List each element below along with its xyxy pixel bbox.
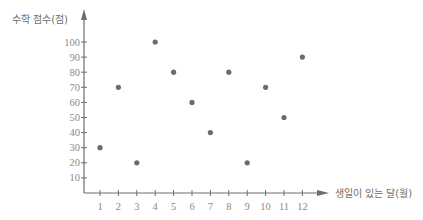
x-tick-label: 2: [116, 201, 121, 212]
x-tick-label: 5: [171, 201, 176, 212]
x-axis-title: 생일이 있는 달(월): [335, 188, 412, 199]
data-point: [153, 39, 158, 44]
data-point: [208, 130, 213, 135]
y-tick-label: 10: [70, 172, 81, 183]
data-point: [134, 160, 139, 165]
x-tick-label: 9: [245, 201, 250, 212]
x-tick-label: 3: [134, 201, 139, 212]
y-tick-label: 30: [70, 142, 81, 153]
data-point: [116, 85, 121, 90]
scatter-chart: 102030405060708090100 123456789101112 수학…: [0, 0, 423, 220]
y-tick-label: 50: [70, 112, 81, 123]
data-point: [171, 70, 176, 75]
x-tick-label: 11: [279, 201, 289, 212]
x-tick-label: 12: [297, 201, 308, 212]
x-tick-label: 6: [189, 201, 194, 212]
x-tick-label: 10: [260, 201, 271, 212]
y-tick-label: 60: [70, 97, 81, 108]
x-axis-arrow-icon: [317, 190, 329, 196]
x-tick-label: 1: [97, 201, 102, 212]
y-tick-label: 20: [70, 157, 81, 168]
y-tick-label: 100: [64, 37, 80, 48]
data-point: [226, 70, 231, 75]
data-point: [263, 85, 268, 90]
x-tick-label: 4: [153, 201, 159, 212]
axes: [81, 9, 329, 196]
y-axis-arrow-icon: [81, 9, 87, 20]
y-tick-label: 80: [70, 67, 81, 78]
data-point: [97, 145, 102, 150]
x-tick-label: 7: [208, 201, 213, 212]
y-tick-label: 40: [70, 127, 81, 138]
y-axis-title: 수학 점수(점): [12, 14, 68, 25]
data-point: [245, 160, 250, 165]
y-tick-label: 90: [70, 52, 81, 63]
y-tick-label: 70: [70, 82, 81, 93]
x-tick-label: 8: [226, 201, 231, 212]
data-point: [189, 100, 194, 105]
data-point: [281, 115, 286, 120]
data-points: [97, 39, 305, 165]
data-point: [300, 55, 305, 60]
